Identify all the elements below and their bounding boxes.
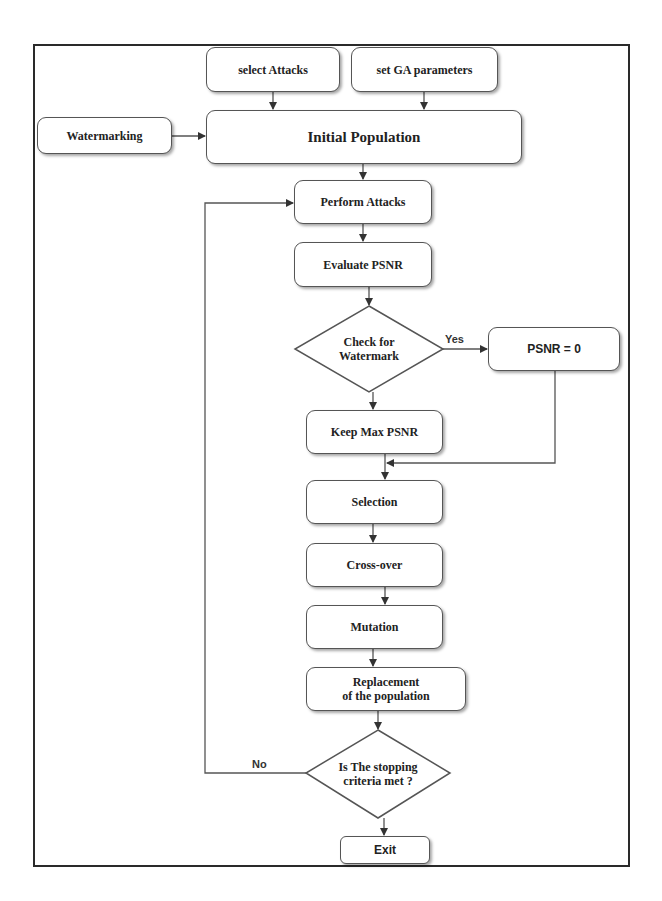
initial-population-node: Initial Population xyxy=(206,110,522,164)
select-attacks-label: select Attacks xyxy=(238,63,308,77)
yes-edge-label: Yes xyxy=(445,333,464,345)
replacement-line2: of the population xyxy=(342,689,429,703)
perform-attacks-label: Perform Attacks xyxy=(321,195,406,209)
replacement-node: Replacement of the population xyxy=(306,667,466,711)
selection-label: Selection xyxy=(352,495,398,509)
mutation-node: Mutation xyxy=(306,605,443,649)
watermarking-label: Watermarking xyxy=(67,129,143,143)
psnr-zero-label: PSNR = 0 xyxy=(527,342,581,356)
exit-label: Exit xyxy=(374,843,396,857)
check-watermark-label: Check for Watermark xyxy=(315,335,423,363)
psnr-zero-node: PSNR = 0 xyxy=(488,327,620,371)
set-ga-parameters-label: set GA parameters xyxy=(377,63,473,77)
keep-max-psnr-node: Keep Max PSNR xyxy=(306,410,443,454)
exit-node: Exit xyxy=(340,836,430,864)
stopping-criteria-label: Is The stopping criteria met ? xyxy=(318,760,438,788)
keep-max-psnr-label: Keep Max PSNR xyxy=(331,425,418,439)
check-watermark-line2: Watermark xyxy=(315,349,423,363)
perform-attacks-node: Perform Attacks xyxy=(294,180,432,224)
watermarking-node: Watermarking xyxy=(37,117,172,154)
evaluate-psnr-node: Evaluate PSNR xyxy=(294,242,432,287)
no-edge-label: No xyxy=(252,758,267,770)
replacement-line1: Replacement xyxy=(353,675,420,689)
set-ga-parameters-node: set GA parameters xyxy=(351,47,498,92)
stopping-line1: Is The stopping xyxy=(318,760,438,774)
crossover-label: Cross-over xyxy=(347,558,403,572)
select-attacks-node: select Attacks xyxy=(206,47,340,92)
crossover-node: Cross-over xyxy=(306,543,443,587)
selection-node: Selection xyxy=(306,480,443,524)
mutation-label: Mutation xyxy=(351,620,399,634)
check-watermark-line1: Check for xyxy=(315,335,423,349)
evaluate-psnr-label: Evaluate PSNR xyxy=(323,258,403,272)
initial-population-label: Initial Population xyxy=(308,130,421,144)
stopping-line2: criteria met ? xyxy=(318,774,438,788)
